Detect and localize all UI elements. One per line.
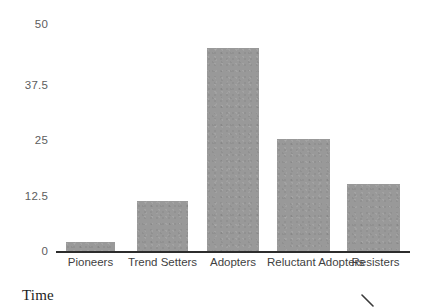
bar-resisters — [347, 184, 400, 252]
bar-adopters — [207, 48, 259, 252]
x-axis-line — [56, 251, 410, 253]
bars-layer — [0, 0, 430, 252]
bar-chart: 50 37.5 25 12.5 0 Pioneers Trend Setters… — [0, 0, 430, 307]
x-tick-label-reluctant-adopters: Reluctant Adopters — [267, 255, 340, 269]
x-tick-label-adopters: Adopters — [198, 255, 268, 269]
bar-trend-setters — [137, 201, 188, 252]
x-axis-title: Time — [22, 288, 54, 303]
x-tick-label-trend-setters: Trend Setters — [127, 255, 198, 269]
x-tick-label-pioneers: Pioneers — [56, 255, 125, 269]
axis-arrow-icon — [360, 292, 382, 307]
x-tick-label-resisters: Resisters — [340, 255, 411, 269]
bar-reluctant-adopters — [277, 139, 330, 252]
x-axis-tick-labels: Pioneers Trend Setters Adopters Reluctan… — [0, 255, 430, 273]
